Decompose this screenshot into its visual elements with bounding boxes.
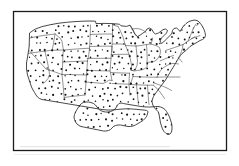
map-dot	[142, 41, 144, 43]
map-dot	[95, 100, 97, 102]
map-dot	[162, 117, 164, 119]
map-dot	[83, 73, 84, 74]
map-dot	[43, 61, 45, 63]
map-dot	[107, 100, 109, 102]
map-dot	[87, 25, 89, 27]
map-dot	[117, 69, 118, 70]
map-dot	[87, 73, 89, 75]
map-dot	[143, 105, 144, 106]
map-dot	[181, 29, 183, 31]
map-dot	[134, 42, 136, 44]
map-dot	[178, 44, 180, 46]
map-dot	[128, 63, 130, 65]
map-dot	[79, 29, 81, 31]
map-dot	[92, 31, 94, 33]
map-dot	[112, 35, 114, 37]
map-dot	[139, 114, 140, 115]
map-dot	[87, 126, 89, 128]
scan-smudge	[20, 146, 170, 147]
map-dot	[132, 63, 134, 65]
map-dot	[140, 51, 142, 53]
map-dot	[131, 124, 133, 126]
map-dot	[44, 49, 46, 51]
map-dot	[90, 64, 91, 65]
map-dot	[68, 25, 70, 27]
map-dot	[120, 101, 121, 102]
map-dot	[64, 94, 66, 96]
map-dot	[63, 25, 64, 27]
map-dot	[94, 75, 96, 77]
map-dot	[127, 101, 129, 103]
map-dot	[49, 75, 51, 77]
map-dot	[64, 88, 66, 90]
map-dot	[99, 95, 101, 97]
map-dot	[172, 57, 173, 58]
map-dot	[192, 32, 194, 34]
map-dot	[150, 38, 152, 40]
map-dot	[105, 57, 107, 59]
map-dot	[153, 81, 155, 83]
map-dot	[107, 39, 108, 40]
map-dot	[122, 118, 124, 120]
map-dot	[92, 95, 94, 97]
map-dot	[88, 89, 90, 91]
map-dot	[108, 25, 110, 27]
map-dot	[112, 55, 114, 57]
map-dot	[44, 87, 46, 89]
map-dot	[90, 119, 92, 121]
map-dot	[125, 37, 127, 39]
map-dot	[102, 99, 104, 101]
map-dot	[39, 76, 40, 77]
map-dot	[153, 68, 155, 70]
map-dot	[78, 80, 80, 82]
map-dot	[118, 32, 120, 34]
map-dot	[74, 67, 76, 69]
map-dot	[132, 36, 134, 38]
map-dot	[67, 56, 69, 58]
map-dot	[85, 119, 87, 121]
map-dot	[71, 80, 73, 82]
map-dot	[101, 76, 103, 78]
map-dot	[59, 42, 61, 44]
map-dot	[37, 62, 39, 64]
map-dot	[148, 80, 150, 82]
map-dot	[120, 48, 122, 50]
map-dot	[111, 120, 113, 122]
map-dot	[151, 61, 153, 63]
map-dot	[104, 43, 106, 45]
map-dot	[46, 42, 48, 44]
map-dot	[96, 61, 98, 63]
map-dot	[146, 36, 147, 37]
map-dot	[68, 82, 70, 84]
map-dot	[31, 63, 33, 65]
map-dot	[27, 70, 29, 72]
map-dot	[57, 49, 59, 51]
map-dot	[49, 99, 50, 100]
map-dot	[99, 69, 101, 71]
map-dot	[100, 37, 102, 39]
map-dot	[46, 67, 47, 68]
map-dot	[203, 37, 205, 39]
map-dot	[124, 74, 126, 76]
map-dot	[130, 118, 131, 119]
map-dot	[68, 44, 70, 46]
map-dot	[149, 42, 151, 44]
map-dot	[77, 61, 79, 63]
map-dot	[69, 64, 71, 66]
map-dot	[74, 99, 76, 101]
map-dot	[160, 32, 162, 34]
map-dot	[134, 69, 136, 71]
map-dot	[126, 114, 128, 116]
map-dot	[107, 87, 109, 89]
map-dot	[105, 69, 107, 71]
map-dot	[81, 36, 82, 37]
map-dot	[80, 44, 82, 46]
map-dot	[83, 51, 85, 53]
map-dot	[184, 39, 186, 41]
map-dot	[61, 55, 63, 57]
map-dot	[127, 49, 128, 50]
map-dot	[63, 50, 65, 52]
map-dot	[85, 43, 87, 45]
map-dot	[136, 82, 138, 84]
map-dot	[71, 101, 73, 103]
